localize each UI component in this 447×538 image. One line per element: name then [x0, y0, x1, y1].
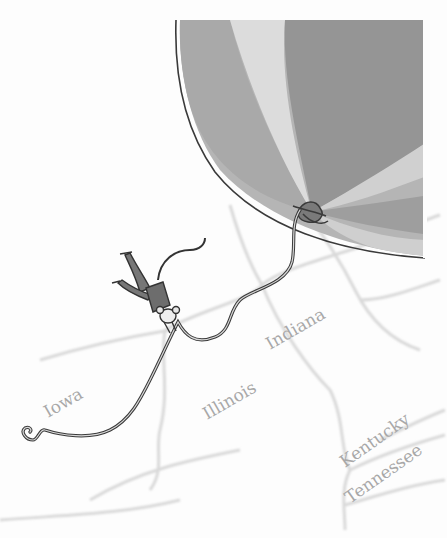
label-iowa: Iowa	[40, 383, 86, 421]
map-labels: Iowa Illinois Indiana Kentucky Tennessee	[40, 304, 426, 508]
balloon	[170, 15, 430, 265]
illustration: Iowa Illinois Indiana Kentucky Tennessee	[0, 0, 447, 538]
label-illinois: Illinois	[199, 377, 260, 424]
scene: Iowa Illinois Indiana Kentucky Tennessee	[0, 0, 447, 538]
